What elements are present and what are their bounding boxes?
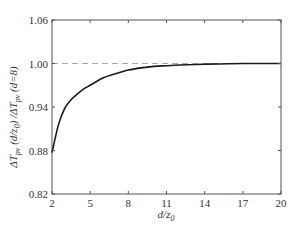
x-tick-label: 5 (87, 197, 93, 209)
x-axis-label: d/z0 (158, 208, 175, 223)
line-chart: 25811141720 0.820.880.941.001.06 d/z0 ΔT… (0, 0, 299, 237)
y-tick-label: 0.88 (29, 145, 49, 157)
series-line (52, 63, 281, 152)
x-tick-label: 20 (276, 197, 288, 209)
x-tick-label: 2 (49, 197, 55, 209)
x-axis-ticks: 25811141720 (49, 20, 287, 209)
y-axis-label: ΔTpv (d/z0) /ΔTpv (d=8) (7, 66, 22, 169)
plot-frame (52, 20, 281, 194)
x-tick-label: 17 (237, 197, 249, 209)
x-tick-label: 14 (199, 197, 211, 209)
y-tick-label: 1.06 (29, 14, 49, 26)
y-tick-label: 0.94 (29, 101, 49, 113)
data-series (52, 63, 281, 152)
x-tick-label: 8 (126, 197, 132, 209)
y-tick-label: 1.00 (29, 58, 49, 70)
y-axis-ticks: 0.820.880.941.001.06 (29, 14, 281, 200)
y-tick-label: 0.82 (29, 188, 48, 200)
